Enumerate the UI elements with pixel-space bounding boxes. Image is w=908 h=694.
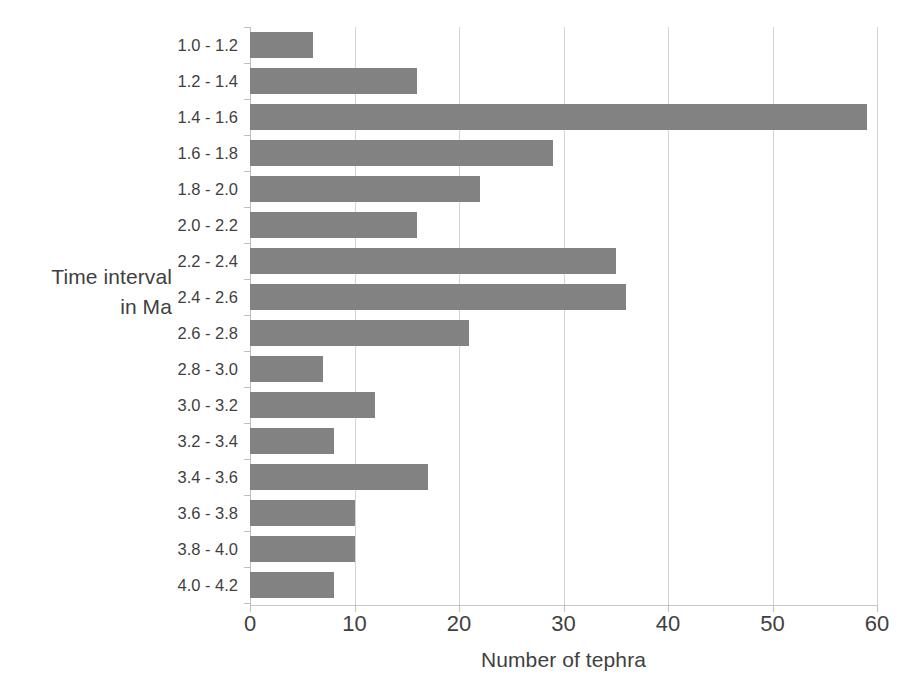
x-axis-tick-label: 0: [244, 608, 256, 640]
bar[interactable]: [250, 248, 616, 274]
bar[interactable]: [250, 356, 323, 382]
bar[interactable]: [250, 68, 417, 94]
y-axis-tick-label: 2.2 - 2.4: [60, 243, 238, 279]
y-axis-tick-label: 2.0 - 2.2: [60, 207, 238, 243]
y-axis-tick: [244, 387, 250, 388]
y-axis-tick: [244, 315, 250, 316]
bar-row: [250, 171, 877, 207]
bar-row: [250, 567, 877, 603]
y-axis-tick-label: 1.8 - 2.0: [60, 171, 238, 207]
bar-row: [250, 351, 877, 387]
y-axis-tick-label: 4.0 - 4.2: [60, 567, 238, 603]
bar[interactable]: [250, 32, 313, 58]
y-axis-tick: [244, 27, 250, 28]
plot-area: [250, 27, 877, 605]
y-axis-tick-label: 2.8 - 3.0: [60, 351, 238, 387]
bar-row: [250, 531, 877, 567]
bar-row: [250, 207, 877, 243]
y-axis-tick: [244, 603, 250, 604]
y-axis-tick-label: 3.8 - 4.0: [60, 531, 238, 567]
bar-row: [250, 459, 877, 495]
y-axis-tick-label: 2.6 - 2.8: [60, 315, 238, 351]
y-axis-tick: [244, 207, 250, 208]
bar-row: [250, 387, 877, 423]
y-axis-tick: [244, 171, 250, 172]
bar[interactable]: [250, 284, 626, 310]
x-axis-title: Number of tephra: [250, 648, 877, 672]
y-axis-tick: [244, 351, 250, 352]
bar-row: [250, 99, 877, 135]
y-axis-tick: [244, 567, 250, 568]
y-axis-tick: [244, 99, 250, 100]
y-axis-tick: [244, 495, 250, 496]
y-axis-tick-label: 1.6 - 1.8: [60, 135, 238, 171]
bar-row: [250, 27, 877, 63]
bar-row: [250, 135, 877, 171]
bar[interactable]: [250, 464, 428, 490]
y-axis-tick-label: 3.6 - 3.8: [60, 495, 238, 531]
x-axis-tick-label: 40: [656, 608, 680, 640]
y-axis-tick-label: 1.0 - 1.2: [60, 27, 238, 63]
y-axis-tick-label: 1.4 - 1.6: [60, 99, 238, 135]
bar-row: [250, 315, 877, 351]
bar[interactable]: [250, 428, 334, 454]
x-axis-tick-label: 10: [342, 608, 366, 640]
bar-row: [250, 63, 877, 99]
y-axis-tick: [244, 459, 250, 460]
x-axis-tick-label: 30: [551, 608, 575, 640]
bar-row: [250, 243, 877, 279]
y-axis-tick-label: 3.0 - 3.2: [60, 387, 238, 423]
bar[interactable]: [250, 500, 355, 526]
bar-row: [250, 423, 877, 459]
y-axis-tick-labels: 1.0 - 1.21.2 - 1.41.4 - 1.61.6 - 1.81.8 …: [60, 27, 238, 605]
bar[interactable]: [250, 392, 375, 418]
y-axis-tick: [244, 531, 250, 532]
y-axis-tick: [244, 279, 250, 280]
y-axis-tick: [244, 243, 250, 244]
y-axis-tick: [244, 63, 250, 64]
y-axis-tick: [244, 135, 250, 136]
bar-row: [250, 279, 877, 315]
gridline-60: [877, 27, 878, 605]
y-axis-tick-label: 3.2 - 3.4: [60, 423, 238, 459]
bar-row: [250, 495, 877, 531]
y-axis-tick: [244, 423, 250, 424]
bar[interactable]: [250, 212, 417, 238]
bar-chart: Time interval in Ma 1.0 - 1.21.2 - 1.41.…: [0, 0, 908, 694]
y-axis-tick-label: 3.4 - 3.6: [60, 459, 238, 495]
x-axis-tick-label: 50: [760, 608, 784, 640]
y-axis-tick-label: 2.4 - 2.6: [60, 279, 238, 315]
x-axis-tick-labels: 0102030405060: [250, 608, 877, 640]
bar[interactable]: [250, 572, 334, 598]
x-axis-tick-label: 60: [865, 608, 889, 640]
x-axis-tick-label: 20: [447, 608, 471, 640]
y-axis-tick-label: 1.2 - 1.4: [60, 63, 238, 99]
bar[interactable]: [250, 536, 355, 562]
bar[interactable]: [250, 104, 867, 130]
bar[interactable]: [250, 140, 553, 166]
bar[interactable]: [250, 176, 480, 202]
bar[interactable]: [250, 320, 469, 346]
